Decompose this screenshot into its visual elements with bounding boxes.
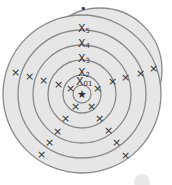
svg-text:×: × [11,66,20,79]
svg-text:×: × [71,100,80,113]
svg-text:×: × [149,62,158,75]
top-dot: • [80,2,87,15]
target-diagram: • X5 X4 X3 X2 X01 ★ × × × × × × × × × × … [0,0,172,185]
svg-text:×: × [66,82,75,95]
svg-text:×: × [61,112,70,125]
svg-text:×: × [25,70,34,83]
svg-text:×: × [112,136,121,149]
svg-text:×: × [45,136,54,149]
svg-text:×: × [108,75,117,88]
svg-text:×: × [121,149,130,162]
corner-blob [134,174,150,185]
svg-text:×: × [53,125,62,138]
svg-text:×: × [95,112,104,125]
svg-text:×: × [136,67,145,80]
svg-text:×: × [54,78,63,91]
svg-text:×: × [93,82,102,95]
svg-text:×: × [39,74,48,87]
svg-text:×: × [37,148,46,161]
svg-text:×: × [121,71,130,84]
